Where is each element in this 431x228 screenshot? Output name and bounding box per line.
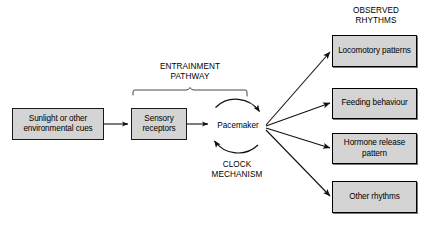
node-other-label: Other rhythms	[347, 192, 402, 202]
node-feeding-behaviour[interactable]: Feeding behaviour	[332, 88, 417, 119]
node-sunlight-or-other-environmental-cues[interactable]: Sunlight or other environmental cues	[12, 108, 104, 140]
entrainment-pathway-label: ENTRAINMENT PATHWAY	[140, 62, 240, 81]
arrow-pacemaker-to-locomotory	[266, 52, 330, 125]
node-locomotory-patterns[interactable]: Locomotory patterns	[332, 35, 417, 67]
entrainment-brace	[133, 88, 247, 97]
observed-rhythms-heading: OBSERVED RHYTHMS	[330, 6, 422, 25]
node-other-rhythms[interactable]: Other rhythms	[332, 181, 417, 213]
node-sensory-receptors[interactable]: Sensory receptors	[131, 108, 187, 140]
pacemaker-label: Pacemaker	[208, 121, 268, 131]
node-sunlight-label: Sunlight or other environmental cues	[13, 114, 103, 134]
node-feeding-label: Feeding behaviour	[339, 98, 409, 108]
node-locomotory-label: Locomotory patterns	[336, 46, 413, 56]
node-sensory-label: Sensory receptors	[132, 114, 186, 134]
clock-arc-bottom	[215, 141, 259, 153]
diagram-canvas: OBSERVED RHYTHMS ENTRAINMENT PATHWAY CLO…	[0, 0, 431, 228]
arrow-pacemaker-to-hormone	[266, 128, 330, 148]
clock-arc-top	[216, 99, 260, 111]
node-hormone-label: Hormone release pattern	[333, 138, 416, 158]
node-hormone-release-pattern[interactable]: Hormone release pattern	[332, 133, 417, 164]
arrow-pacemaker-to-feeding	[266, 103, 330, 126]
clock-mechanism-label: CLOCK MECHANISM	[188, 160, 286, 179]
